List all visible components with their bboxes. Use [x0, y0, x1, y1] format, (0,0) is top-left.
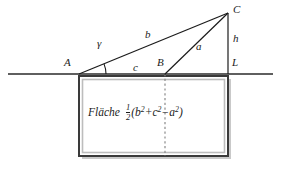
- segment-b-AC: [79, 13, 228, 74]
- side-label-b: b: [145, 29, 151, 40]
- vertex-label-c: C: [233, 4, 240, 15]
- geometry-canvas: [0, 0, 281, 177]
- fraction-numerator: 1: [126, 103, 130, 112]
- gamma-angle-arc: [104, 64, 106, 74]
- area-formula-fraction: 12: [126, 103, 130, 122]
- formula-close-paren: ): [179, 106, 183, 118]
- side-label-a: a: [196, 41, 202, 52]
- area-formula: Fläche12(b2+c2−a2): [88, 103, 183, 122]
- vertex-label-a: A: [64, 57, 71, 68]
- area-formula-word: Fläche: [88, 106, 120, 118]
- height-label-h: h: [233, 33, 239, 44]
- point-label-l: L: [232, 57, 238, 68]
- angle-label-gamma: γ: [97, 38, 101, 49]
- fraction-denominator: 2: [126, 112, 130, 122]
- geometry-figure: A B C L b c a h γ Fläche12(b2+c2−a2): [0, 0, 281, 177]
- vertex-label-b: B: [157, 57, 164, 68]
- side-label-c: c: [133, 62, 138, 73]
